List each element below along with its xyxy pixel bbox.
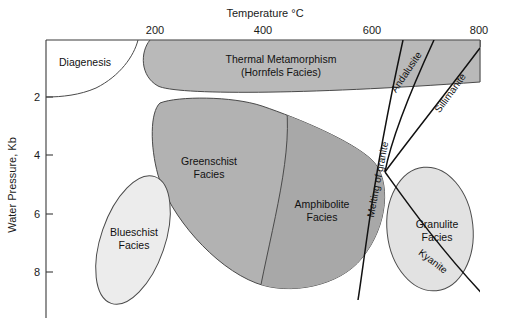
label-amphibolite-line1: Amphibolite — [295, 198, 350, 210]
curve-diagenesis-boundary — [46, 40, 138, 97]
y-tick-label-8: 8 — [34, 266, 40, 278]
x-tick-label-400: 400 — [254, 24, 272, 36]
x-tick-label-600: 600 — [363, 24, 381, 36]
y-tick-label-2: 2 — [34, 91, 40, 103]
label-diagenesis: Diagenesis — [59, 56, 111, 68]
label-amphibolite-line2: Facies — [307, 211, 338, 223]
label-granulite-line1: Granulite — [416, 218, 459, 230]
label-blueschist-line2: Facies — [119, 239, 150, 251]
facies-diagram-root: 200 400 600 800 Temperature °C 2 4 6 8 W… — [0, 0, 505, 333]
y-tick-label-4: 4 — [34, 149, 40, 161]
y-tick-label-6: 6 — [34, 208, 40, 220]
label-granulite-line2: Facies — [422, 231, 453, 243]
y-axis-title: Water Pressure, Kb — [6, 137, 18, 233]
x-tick-label-800: 800 — [470, 24, 488, 36]
label-blueschist-line1: Blueschist — [110, 226, 158, 238]
label-thermal-metamorphism-line2: (Hornfels Facies) — [241, 66, 321, 78]
metamorphic-facies-chart: 200 400 600 800 Temperature °C 2 4 6 8 W… — [0, 0, 505, 333]
label-greenschist-line1: Greenschist — [181, 155, 237, 167]
x-tick-label-200: 200 — [146, 24, 164, 36]
y-axis-ticks — [46, 97, 53, 272]
x-axis-title: Temperature °C — [226, 7, 303, 19]
label-thermal-metamorphism-line1: Thermal Metamorphism — [226, 53, 337, 65]
label-greenschist-line2: Facies — [194, 168, 225, 180]
